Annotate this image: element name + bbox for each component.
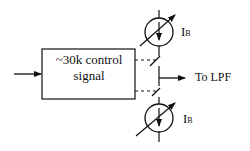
control-signal-label: ~30k control signal bbox=[42, 52, 136, 84]
switch-bottom bbox=[152, 88, 160, 96]
switch-top bbox=[150, 56, 160, 66]
diagram-canvas: ~30k control signal IB To LPF IB bbox=[0, 0, 250, 151]
current-label-top: IB bbox=[181, 24, 191, 40]
block-label-line2: signal bbox=[42, 68, 136, 84]
block-label-line1: ~30k control bbox=[42, 52, 136, 68]
output-label: To LPF bbox=[195, 70, 231, 85]
current-label-bottom: IB bbox=[183, 111, 193, 127]
